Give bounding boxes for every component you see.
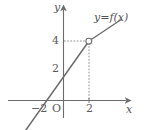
y-tick-label-2: 2 xyxy=(52,63,59,74)
x-tick-label-minus-2: −2 xyxy=(31,103,47,114)
origin-label: O xyxy=(52,103,61,114)
x-tick-label-2: 2 xyxy=(86,103,93,114)
graph-figure: y x y=f(x) O −2 2 2 4 xyxy=(0,0,145,130)
function-line-segment-left xyxy=(6,41,89,130)
open-point-marker xyxy=(86,38,92,44)
x-axis-label: x xyxy=(126,104,132,115)
function-label: y=f(x) xyxy=(94,12,128,23)
y-axis-label: y xyxy=(54,2,60,13)
y-tick-label-4: 4 xyxy=(52,35,59,46)
